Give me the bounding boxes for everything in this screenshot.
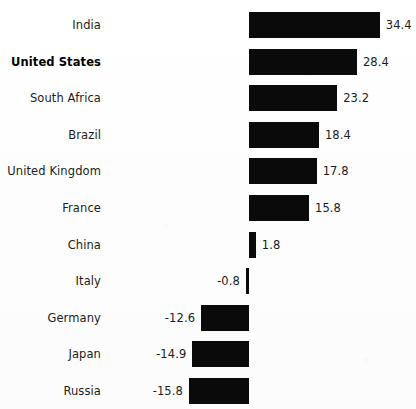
bar-row: Japan-14.9 bbox=[0, 341, 416, 367]
value-label: 23.2 bbox=[343, 91, 369, 105]
bar-row: United Kingdom17.8 bbox=[0, 158, 416, 184]
bar-row: United States28.4 bbox=[0, 49, 416, 75]
category-label: India bbox=[0, 18, 101, 32]
value-label: -14.9 bbox=[156, 347, 186, 361]
bar-row: South Africa23.2 bbox=[0, 85, 416, 111]
category-label: Russia bbox=[0, 384, 101, 398]
value-label: 1.8 bbox=[262, 238, 281, 252]
bar bbox=[246, 268, 249, 294]
category-label: Italy bbox=[0, 274, 101, 288]
bar-row: Brazil18.4 bbox=[0, 122, 416, 148]
category-label: China bbox=[0, 238, 101, 252]
category-label: United Kingdom bbox=[0, 164, 101, 178]
value-label: 17.8 bbox=[323, 164, 349, 178]
value-label: 18.4 bbox=[325, 128, 351, 142]
bar bbox=[249, 122, 319, 148]
bar bbox=[192, 341, 249, 367]
bar-row: Germany-12.6 bbox=[0, 305, 416, 331]
bar bbox=[249, 12, 380, 38]
value-label: -15.8 bbox=[153, 384, 183, 398]
category-label: Germany bbox=[0, 311, 101, 325]
bar bbox=[249, 85, 337, 111]
value-label: 34.4 bbox=[386, 18, 412, 32]
category-label: Brazil bbox=[0, 128, 101, 142]
value-label: -0.8 bbox=[217, 274, 240, 288]
bar bbox=[201, 305, 249, 331]
bar bbox=[249, 158, 317, 184]
bar-row: China1.8 bbox=[0, 232, 416, 258]
category-label: France bbox=[0, 201, 101, 215]
bar-row: Italy-0.8 bbox=[0, 268, 416, 294]
bar bbox=[189, 378, 249, 404]
bar bbox=[249, 195, 309, 221]
category-label: South Africa bbox=[0, 91, 101, 105]
bar-row: Russia-15.8 bbox=[0, 378, 416, 404]
plot-area: India34.4United States28.4South Africa23… bbox=[0, 0, 416, 409]
bar bbox=[249, 49, 357, 75]
bar-row: France15.8 bbox=[0, 195, 416, 221]
bar bbox=[249, 232, 256, 258]
bar-row: India34.4 bbox=[0, 12, 416, 38]
bar-chart: India34.4United States28.4South Africa23… bbox=[0, 0, 416, 409]
value-label: -12.6 bbox=[165, 311, 195, 325]
category-label: United States bbox=[0, 55, 101, 69]
category-label: Japan bbox=[0, 347, 101, 361]
value-label: 28.4 bbox=[363, 55, 389, 69]
value-label: 15.8 bbox=[315, 201, 341, 215]
